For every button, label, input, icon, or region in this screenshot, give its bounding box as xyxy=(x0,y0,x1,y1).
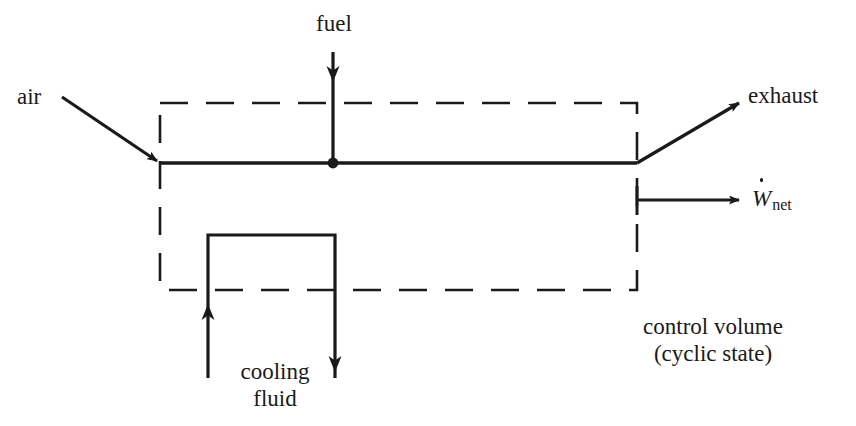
label-control-volume: control volume (cyclic state) xyxy=(643,313,783,367)
work-subscript: net xyxy=(772,196,792,213)
fuel-junction-dot xyxy=(328,158,339,169)
work-symbol-text: W xyxy=(752,186,771,211)
rate-dot-icon xyxy=(760,178,764,182)
label-cooling-fluid: cooling fluid xyxy=(241,358,310,412)
control-volume-line-1: control volume xyxy=(643,313,783,340)
control-volume-dashed-rect xyxy=(160,103,637,290)
label-air: air xyxy=(17,83,41,110)
cooling-fluid-line-1: cooling xyxy=(241,358,310,385)
exhaust-outlet-arrow xyxy=(637,103,739,163)
thermodynamics-control-volume-diagram: air fuel exhaust Wnet cooling fluid cont… xyxy=(0,0,856,426)
work-symbol: W xyxy=(752,185,771,212)
cooling-fluid-line-2: fluid xyxy=(241,385,310,412)
label-fuel: fuel xyxy=(316,10,352,37)
air-inlet-arrow xyxy=(62,97,157,161)
label-exhaust: exhaust xyxy=(748,82,818,109)
control-volume-boundary xyxy=(160,103,637,290)
control-volume-line-2: (cyclic state) xyxy=(643,340,783,367)
label-net-work: Wnet xyxy=(752,185,792,214)
cooling-fluid-loop xyxy=(208,235,335,378)
